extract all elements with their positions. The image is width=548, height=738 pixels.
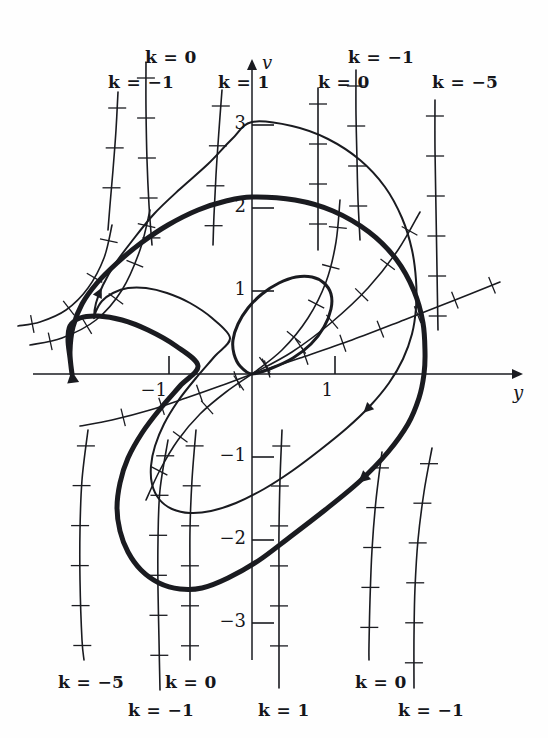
- v-axis-arrowhead: [247, 59, 257, 70]
- phase-plane-plot: [0, 0, 548, 738]
- isocline-label-bot-k0-r: k = 0: [355, 672, 407, 692]
- y-tick-label-3: −1: [216, 444, 246, 465]
- isocline-label-bot-km1-r: k = −1: [398, 700, 464, 720]
- curve-isocline-lower-k0-right: [369, 452, 382, 660]
- curve-isocline-lower-mid: [190, 430, 196, 660]
- slope-hatch: [173, 432, 188, 443]
- isocline-label-bot-km1-l: k = −1: [128, 700, 194, 720]
- y-tick-label-0: 3: [216, 112, 246, 133]
- isocline-label-top-k0-right: k = 0: [318, 72, 370, 92]
- curve-inner-orbit-thin: [94, 121, 417, 513]
- y-axis-name-label: v: [262, 52, 272, 73]
- curve-isocline-top-km1-right: [356, 70, 360, 240]
- curve-isocline-lower-left-a: [80, 430, 88, 660]
- slope-hatch: [402, 227, 418, 236]
- y-tick-label-1: 2: [216, 195, 246, 216]
- isocline-label-bot-k0-l: k = 0: [165, 672, 217, 692]
- y-tick-label-2: 1: [216, 278, 246, 299]
- flow-arrowhead: [66, 370, 79, 383]
- slope-hatch: [82, 319, 91, 334]
- slope-hatch: [489, 277, 496, 294]
- isocline-label-bot-k1: k = 1: [258, 700, 310, 720]
- curve-isocline-top-km5: [435, 100, 438, 330]
- slope-hatch: [287, 331, 301, 343]
- slope-hatch: [127, 260, 144, 267]
- curve-isocline-center-fan-2: [252, 212, 420, 374]
- y-tick-label-5: −3: [216, 610, 246, 631]
- x-tick-label-1: 1: [305, 379, 333, 400]
- slope-hatch: [377, 321, 384, 338]
- isocline-label-top-km1-right: k = −1: [348, 47, 414, 67]
- slope-hatch: [109, 294, 124, 305]
- isocline-label-top-k1: k = 1: [218, 72, 270, 92]
- slope-hatch: [329, 227, 347, 229]
- curve-isocline-lower-k1: [279, 430, 282, 688]
- x-axis-arrowhead: [512, 369, 523, 379]
- slope-hatch: [63, 301, 74, 315]
- curve-isocline-lower-left-b: [158, 440, 168, 690]
- slope-hatch: [452, 292, 459, 309]
- slope-hatch: [381, 259, 395, 270]
- isocline-label-bot-km5: k = −5: [58, 672, 124, 692]
- curve-isocline-left-sweep-b: [18, 225, 112, 326]
- slope-hatch: [152, 467, 168, 475]
- x-tick-label-0: −1: [139, 379, 167, 400]
- curve-isocline-top-km1-left: [108, 92, 118, 230]
- isocline-label-top-km1-left: k = −1: [108, 72, 174, 92]
- slope-hatch: [308, 300, 324, 308]
- phase-plane-figure: 321−1−2−3−11k = 0k = −1k = 1k = −1k = 0k…: [0, 0, 548, 738]
- curve-isocline-lower-km1-right: [414, 448, 432, 688]
- curve-origin-small-loop: [233, 276, 332, 374]
- isocline-label-top-km5: k = −5: [432, 72, 498, 92]
- x-axis-name-label: y: [513, 382, 523, 403]
- isocline-label-top-k0-left: k = 0: [145, 47, 197, 67]
- y-tick-label-4: −2: [216, 527, 246, 548]
